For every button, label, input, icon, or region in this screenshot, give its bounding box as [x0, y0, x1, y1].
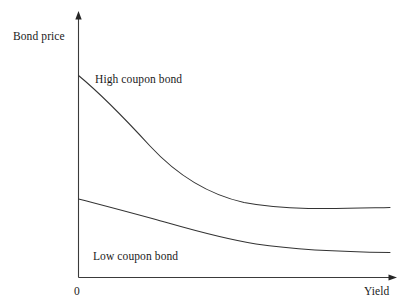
x-axis-label: Yield — [364, 285, 389, 298]
series-label-high-coupon-bond: High coupon bond — [95, 73, 182, 86]
chart-background — [0, 0, 417, 308]
series-label-low-coupon-bond: Low coupon bond — [93, 250, 178, 263]
chart-plot-area — [0, 0, 417, 308]
y-axis-label: Bond price — [13, 30, 65, 43]
origin-tick-label: 0 — [74, 285, 80, 298]
bond-price-yield-chart: Bond price Yield 0 High coupon bond Low … — [0, 0, 417, 308]
